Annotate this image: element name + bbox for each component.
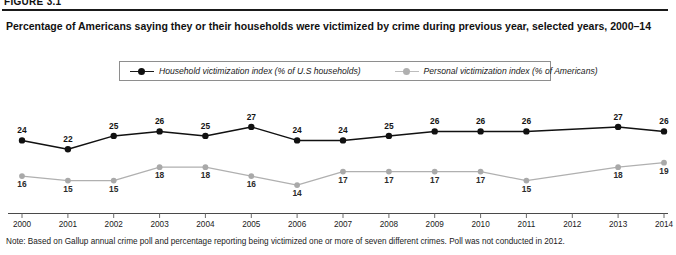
data-point xyxy=(111,133,117,139)
data-label: 17 xyxy=(384,175,394,185)
x-axis-tick-label: 2012 xyxy=(563,220,582,229)
data-label: 15 xyxy=(109,184,119,194)
chart-legend: Household victimization index (% of U.S … xyxy=(119,61,551,81)
x-axis-tick-label: 2000 xyxy=(13,220,32,229)
data-point xyxy=(65,146,71,152)
legend-label-personal: Personal victimization index (% of Ameri… xyxy=(424,66,598,76)
data-label: 26 xyxy=(476,116,486,126)
figure-number: FIGURE 3.1 xyxy=(4,0,61,7)
data-label: 19 xyxy=(659,166,669,176)
data-point xyxy=(477,128,483,134)
x-axis-tick-label: 2002 xyxy=(105,220,124,229)
data-point xyxy=(523,128,529,134)
chart-note: Note: Based on Gallup annual crime poll … xyxy=(6,237,672,246)
legend-item-household: Household victimization index (% of U.S … xyxy=(130,66,361,76)
x-axis-tick-label: 2003 xyxy=(150,220,169,229)
data-label: 15 xyxy=(63,184,73,194)
data-point xyxy=(340,137,346,143)
data-label: 17 xyxy=(476,175,486,185)
data-label: 24 xyxy=(17,125,27,135)
x-axis-tick-label: 2001 xyxy=(59,220,78,229)
x-axis-tick-label: 2008 xyxy=(380,220,399,229)
data-point xyxy=(248,124,254,130)
x-axis-tick-label: 2006 xyxy=(288,220,307,229)
data-label: 27 xyxy=(613,112,623,122)
x-axis-tick-label: 2007 xyxy=(334,220,353,229)
data-label: 26 xyxy=(430,116,440,126)
x-axis-tick-label: 2005 xyxy=(242,220,261,229)
data-label: 24 xyxy=(292,125,302,135)
x-axis-tick-label: 2009 xyxy=(426,220,445,229)
legend-item-personal: Personal victimization index (% of Ameri… xyxy=(395,66,598,76)
data-label: 26 xyxy=(522,116,532,126)
data-label: 17 xyxy=(338,175,348,185)
data-label: 25 xyxy=(201,121,211,131)
data-point xyxy=(661,128,667,134)
data-point xyxy=(386,133,392,139)
x-axis-tick-label: 2004 xyxy=(196,220,215,229)
data-point xyxy=(615,124,621,130)
data-point xyxy=(19,137,25,143)
data-label: 22 xyxy=(63,134,73,144)
x-axis-tick-label: 2010 xyxy=(471,220,490,229)
x-axis-tick-label: 2014 xyxy=(655,220,674,229)
header-rule xyxy=(2,9,668,11)
data-point xyxy=(294,137,300,143)
x-axis-tick-label: 2011 xyxy=(518,220,536,229)
data-label: 16 xyxy=(247,179,257,189)
data-label: 15 xyxy=(522,184,532,194)
data-label: 16 xyxy=(17,179,27,189)
data-point xyxy=(156,128,162,134)
legend-marker-personal-icon xyxy=(395,67,419,76)
data-label: 25 xyxy=(384,121,394,131)
chart-plot-area: 2422252625272424252626262726161515181816… xyxy=(0,88,676,213)
data-label: 17 xyxy=(430,175,440,185)
data-label: 18 xyxy=(155,170,165,180)
x-axis-svg: 2000200120022003200420052006200720082009… xyxy=(0,212,676,232)
data-label: 26 xyxy=(659,116,669,126)
data-label: 25 xyxy=(109,121,119,131)
page-title: Percentage of Americans saying they or t… xyxy=(6,20,670,32)
legend-label-household: Household victimization index (% of U.S … xyxy=(159,66,361,76)
x-axis: 2000200120022003200420052006200720082009… xyxy=(0,212,676,232)
data-point xyxy=(202,133,208,139)
data-label: 27 xyxy=(247,112,257,122)
data-label: 18 xyxy=(613,170,623,180)
data-label: 24 xyxy=(338,125,348,135)
data-label: 14 xyxy=(292,188,302,198)
x-axis-tick-label: 2013 xyxy=(609,220,628,229)
data-label: 26 xyxy=(155,116,165,126)
data-point xyxy=(432,128,438,134)
line-chart: 2422252625272424252626262726161515181816… xyxy=(0,88,676,213)
data-label: 18 xyxy=(201,170,211,180)
legend-marker-household-icon xyxy=(130,67,154,76)
